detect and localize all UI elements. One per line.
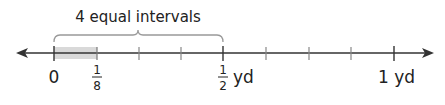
label-one: 1 yd xyxy=(378,67,415,87)
number-line-diagram: 4 equal intervals 0 1 8 1 2 yd 1 yd xyxy=(0,0,445,105)
brace xyxy=(54,30,223,42)
label-half-numerator: 1 xyxy=(219,63,227,77)
label-half-unit: yd xyxy=(233,67,254,87)
label-eighth-denominator: 8 xyxy=(93,79,101,93)
label-half-denominator: 2 xyxy=(219,79,227,93)
brace-label: 4 equal intervals xyxy=(75,8,201,26)
label-zero: 0 xyxy=(49,67,60,87)
label-eighth-numerator: 1 xyxy=(93,63,101,77)
